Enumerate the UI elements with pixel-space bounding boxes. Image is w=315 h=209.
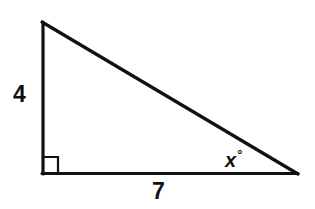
angle-variable-text: x	[225, 149, 236, 171]
vertical-leg-label: 4	[13, 83, 26, 106]
hypotenuse-line	[42, 22, 298, 174]
angle-label: x°	[225, 148, 242, 170]
horizontal-leg-label: 7	[152, 180, 165, 203]
degree-symbol-icon: °	[237, 147, 242, 162]
right-triangle-figure: 4 7 x°	[0, 0, 315, 209]
right-angle-marker-icon	[43, 157, 58, 172]
